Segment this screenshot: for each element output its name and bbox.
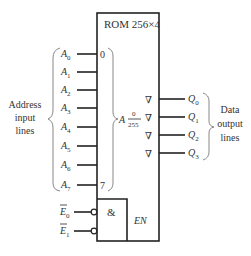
- address-label-line3: lines: [16, 125, 35, 136]
- input-label-a0: A0: [60, 48, 71, 62]
- data-lines-brace: [203, 93, 214, 160]
- input-label-a3: A3: [60, 102, 71, 116]
- input-label-a7: A7: [60, 179, 71, 193]
- output-label-q0: Q0: [188, 93, 199, 107]
- data-outputs: ∇Q0∇Q1∇Q2∇Q3: [145, 93, 199, 161]
- tristate-output-icon: ∇: [145, 94, 152, 105]
- address-label-line2: input: [15, 112, 36, 123]
- data-label-line3: lines: [221, 132, 240, 143]
- address-start-label: 0: [100, 49, 105, 60]
- address-range-brace: [108, 48, 118, 191]
- input-label-a1: A1: [60, 66, 71, 80]
- input-label-a2: A2: [60, 84, 71, 98]
- output-label-q2: Q2: [188, 129, 199, 143]
- address-fraction-bottom: 255: [128, 121, 139, 129]
- address-symbol: A: [118, 114, 126, 125]
- input-label-a6: A6: [60, 159, 71, 173]
- address-end-label: 7: [100, 180, 105, 191]
- rom-title: ROM 256×4: [104, 18, 161, 30]
- address-fraction-top: 0: [132, 110, 136, 118]
- tristate-output-icon: ∇: [145, 130, 152, 141]
- address-lines-brace: [48, 48, 60, 191]
- input-label-a5: A5: [60, 140, 71, 154]
- output-label-q3: Q3: [188, 147, 199, 161]
- tristate-output-icon: ∇: [145, 148, 152, 159]
- inversion-bubble-icon: [91, 228, 97, 234]
- address-inputs: A0A1A2A3A4A5A6A7: [60, 48, 97, 193]
- data-label-line2: output: [217, 118, 243, 129]
- enable-label: EN: [133, 215, 148, 226]
- tristate-output-icon: ∇: [145, 112, 152, 123]
- input-label-a4: A4: [60, 121, 71, 135]
- enable-label-e0: E0: [59, 206, 70, 220]
- enable-label-e1: E1: [59, 225, 70, 239]
- rom-diagram: ROM 256×4 A0A1A2A3A4A5A6A7 ∇Q0∇Q1∇Q2∇Q3 …: [0, 0, 251, 256]
- inversion-bubble-icon: [91, 209, 97, 215]
- address-label-line1: Address: [9, 99, 42, 110]
- data-label-line1: Data: [221, 104, 240, 115]
- enable-inputs: E0E1: [59, 205, 97, 239]
- output-label-q1: Q1: [188, 111, 199, 125]
- and-symbol: &: [107, 206, 116, 218]
